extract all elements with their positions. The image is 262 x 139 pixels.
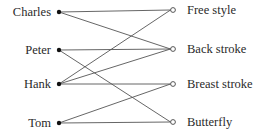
stroke-label-butterfly: Butterfly [187,115,233,129]
filled-dot-icon [57,121,61,125]
swimmer-label-charles: Charles [13,5,51,19]
open-circle-icon [171,47,176,52]
stroke-label-back-stroke: Back stroke [187,42,247,56]
filled-dot-icon [57,82,61,86]
edge-hank-free_style [59,10,171,84]
swimmer-label-hank: Hank [24,77,52,91]
open-circle-icon [171,82,176,87]
edge-peter-back_stroke [59,49,171,50]
open-circle-icon [171,120,176,125]
edges [59,10,171,123]
open-circle-icon [171,8,176,13]
strokes: Free style Back stroke Breast stroke But… [187,3,253,129]
stroke-label-free-style: Free style [187,3,236,17]
edge-charles-back_stroke [59,12,171,49]
swimmer-label-peter: Peter [25,43,52,57]
edge-tom-breast_stroke [59,84,171,123]
filled-dot-icon [57,48,61,52]
edge-hank-back_stroke [59,49,171,84]
swimmers: Charles Peter Hank Tom [13,5,52,130]
edge-peter-butterfly [59,50,171,122]
edge-tom-butterfly [59,122,171,123]
edge-charles-free_style [59,10,171,12]
bipartite-diagram: Charles Peter Hank Tom Free style Back s… [0,0,262,139]
swimmer-label-tom: Tom [28,116,51,130]
filled-dot-icon [57,10,61,14]
stroke-label-breast-stroke: Breast stroke [187,77,253,91]
